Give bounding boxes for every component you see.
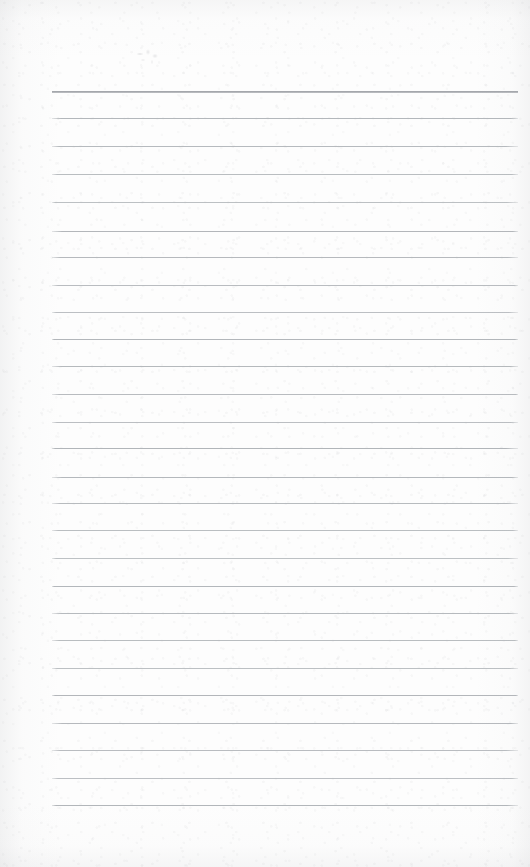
rule-line [52, 257, 518, 258]
rule-line [52, 613, 518, 614]
rule-line [52, 312, 518, 313]
rule-line [52, 448, 518, 449]
rule-line [52, 285, 518, 286]
rule-line [52, 174, 518, 175]
rule-line [52, 146, 518, 147]
rule-line [52, 422, 518, 423]
rule-line [52, 586, 518, 587]
scanned-page-viewport [0, 0, 530, 867]
rule-line [52, 668, 518, 669]
rule-line [52, 723, 518, 724]
rule-line [52, 394, 518, 395]
ruled-lines-layer [0, 0, 530, 867]
rule-line [52, 750, 518, 751]
paper-sheet [0, 0, 530, 867]
rule-line [52, 778, 518, 779]
rule-line [52, 805, 518, 806]
rule-line [52, 202, 518, 203]
pencil-smudge-mark [134, 49, 161, 65]
rule-line [52, 503, 518, 504]
rule-line [52, 91, 518, 93]
rule-line [52, 640, 518, 641]
paper-grain-texture [0, 0, 530, 867]
rule-line [52, 339, 518, 340]
rule-line [52, 558, 518, 559]
rule-line [52, 231, 518, 232]
rule-line [52, 477, 518, 478]
rule-line [52, 695, 518, 696]
rule-line [52, 118, 518, 119]
rule-line [52, 530, 518, 531]
paper-edge-vignette [0, 0, 530, 867]
rule-line [52, 366, 518, 367]
